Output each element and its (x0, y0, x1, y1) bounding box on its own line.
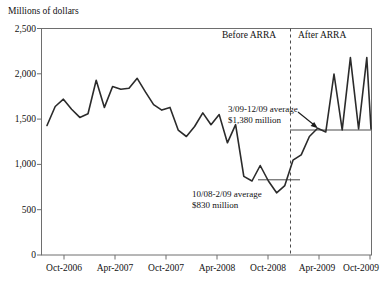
plot-border (42, 29, 372, 256)
chart-figure: Millions of dollars 2,500 2,000 1,500 1,… (0, 0, 386, 283)
x-axis-ticks (64, 255, 370, 260)
plot-frame (42, 29, 372, 256)
chart-plot-svg (0, 0, 386, 283)
series-line-monthly-value (47, 58, 371, 193)
y-axis-ticks (37, 29, 42, 256)
after-arra-average-arrow (298, 112, 318, 128)
